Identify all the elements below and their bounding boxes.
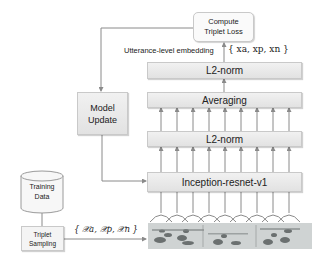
sampling-math: { 𝒳a, 𝒳p, 𝒳n } (74, 224, 138, 235)
mid-l2norm-layer: L2-norm (147, 131, 302, 147)
model-update-line2: Update (88, 114, 117, 126)
compute-loss-line2: Triplet Loss (204, 27, 243, 37)
training-data-line2: Data (20, 192, 64, 202)
top-l2norm-layer: L2-norm (147, 62, 302, 79)
training-data-label: Training Data (20, 182, 64, 202)
spectrogram-icon (148, 223, 312, 249)
compute-loss-line1: Compute (204, 17, 243, 27)
compute-triplet-loss-box: Compute Triplet Loss (193, 12, 254, 42)
averaging-layer: Averaging (147, 92, 302, 108)
triplet-sampling-line2: Sampling (29, 239, 56, 248)
spectrogram-image (148, 223, 312, 249)
embedding-label: Utterance-level embedding (124, 46, 214, 55)
inception-resnet-layer: Inception-resnet-v1 (147, 172, 302, 192)
training-data-line1: Training (20, 182, 64, 192)
model-update-line1: Model (88, 102, 117, 114)
embedding-math: { xa, xp, xn } (228, 44, 289, 54)
triplet-sampling-line1: Triplet (29, 230, 56, 239)
triplet-sampling-box: Triplet Sampling (21, 226, 64, 251)
model-update-box: Model Update (77, 92, 128, 135)
